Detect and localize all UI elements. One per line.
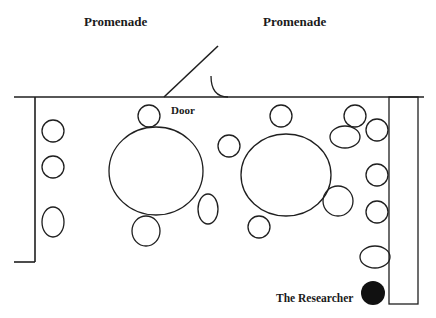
door-symbol xyxy=(164,46,228,97)
counter xyxy=(389,97,418,304)
researcher-label: The Researcher xyxy=(276,293,353,305)
chair xyxy=(366,201,388,223)
door-label: Door xyxy=(171,105,195,116)
chair xyxy=(366,119,388,141)
chair xyxy=(42,156,64,178)
chairs xyxy=(42,105,390,268)
door-leaf xyxy=(164,46,218,97)
researcher-marker xyxy=(361,281,385,305)
table-right xyxy=(241,134,331,216)
walls xyxy=(14,97,424,262)
chair xyxy=(344,105,366,127)
counter-rect xyxy=(389,97,418,304)
researcher-dot-icon xyxy=(361,281,385,305)
chair xyxy=(42,207,64,237)
chair xyxy=(330,126,360,148)
chair xyxy=(132,216,160,246)
chair xyxy=(218,135,240,157)
door-swing-arc xyxy=(211,76,228,97)
chair xyxy=(323,186,353,216)
chair xyxy=(42,120,64,142)
chair xyxy=(366,164,388,186)
chair xyxy=(360,246,390,268)
promenade-label-right: Promenade xyxy=(263,15,326,28)
floor-plan-drawing xyxy=(0,0,436,318)
floor-plan-diagram: Promenade Promenade Door The Researcher xyxy=(0,0,436,318)
promenade-label-left: Promenade xyxy=(84,15,147,28)
chair xyxy=(270,105,292,127)
table-left xyxy=(109,127,203,215)
chair xyxy=(198,194,218,224)
chair xyxy=(248,216,270,238)
chair xyxy=(138,105,160,127)
